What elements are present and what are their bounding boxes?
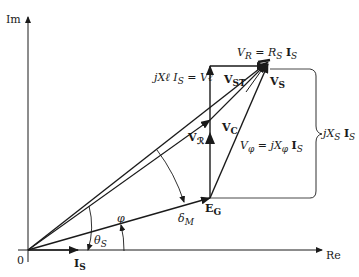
phasor-diagram: Im Re 0 IS EG jXℓ IS = Vℓ VST VR = RS IS… [0,0,359,277]
vr-air-label: Vℛ [188,132,204,146]
re-axis-label: Re [326,250,341,261]
bracket-label: jXS IS [323,128,355,142]
mid-arrowhead [205,132,215,144]
delta-arc [157,150,184,202]
theta-arc [88,206,92,250]
vc-phasor [210,64,266,120]
vphi-label: Vφ = jXφ IS [240,140,303,154]
theta-label: θS [94,235,107,249]
phi-label: φ [117,213,125,224]
im-axis-label: Im [6,14,21,25]
delta-label: δM [178,213,194,227]
vst-label: VST [224,74,246,88]
vs-phasor [28,62,268,250]
diagram-graphics [0,0,359,277]
eg-label: EG [205,203,221,217]
vc-phasor-2 [246,64,266,92]
phi-arc [121,225,124,251]
jxl-is-label: jXℓ IS = Vℓ [154,72,213,86]
vs-label: VS [270,76,285,90]
is-label: IS [74,258,86,272]
vr-label: VR = RS IS [237,47,297,61]
vr-air-phasor [28,120,210,250]
origin-label: 0 [17,255,24,266]
brace [310,69,322,198]
vc-label: VC [222,122,238,136]
